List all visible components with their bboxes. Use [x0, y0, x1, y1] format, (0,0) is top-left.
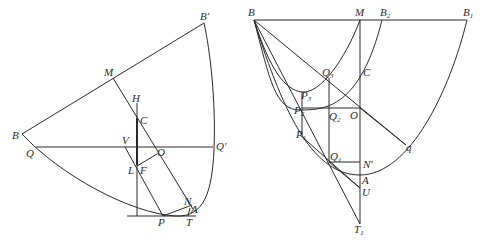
parabola-inner	[254, 20, 360, 92]
left-diagram: B′ M H C B Q V O Q′ L F N A P T	[12, 10, 227, 228]
label-Q-prime: Q′	[216, 140, 227, 152]
label-Q: Q	[26, 147, 34, 159]
label-P: P	[157, 216, 165, 228]
label-H: H	[131, 92, 141, 104]
figure-canvas: B′ M H C B Q V O Q′ L F N A P T	[0, 0, 481, 241]
line-O-q	[360, 108, 406, 145]
label-Q3: Q3	[322, 66, 334, 80]
geometry-figure: B′ M H C B Q V O Q′ L F N A P T	[0, 0, 481, 241]
label-P1: P1	[295, 128, 306, 142]
label-T1: T1	[354, 223, 364, 237]
parabola-middle	[254, 20, 382, 110]
label-B: B	[12, 129, 19, 141]
label-A: A	[361, 174, 369, 186]
label-B2: B2	[380, 6, 391, 20]
label-V: V	[122, 134, 130, 146]
label-N-prime: N′	[362, 158, 373, 170]
label-q: q	[406, 141, 412, 153]
line-A-T	[188, 208, 190, 216]
label-U: U	[362, 186, 371, 198]
label-M: M	[103, 66, 114, 78]
label-B-prime: B′	[200, 10, 210, 22]
label-O: O	[157, 146, 165, 158]
right-diagram: B M B2 B1 Q3 C P3 P2 Q2 O P1 Q1 N′ q A U…	[248, 6, 473, 237]
label-B: B	[248, 6, 255, 18]
label-C: C	[140, 114, 148, 126]
parabola-curve-left	[22, 23, 214, 216]
label-C: C	[363, 66, 371, 78]
label-M: M	[354, 6, 365, 18]
label-F: F	[139, 164, 147, 176]
label-P2: P2	[293, 104, 305, 118]
tangent-B-T1	[254, 20, 360, 224]
label-B1: B1	[463, 6, 473, 20]
label-L: L	[127, 164, 134, 176]
label-Q2: Q2	[329, 110, 341, 124]
label-A: A	[190, 203, 198, 215]
label-T: T	[186, 216, 193, 228]
label-Q1: Q1	[330, 150, 341, 164]
label-O: O	[350, 109, 358, 121]
